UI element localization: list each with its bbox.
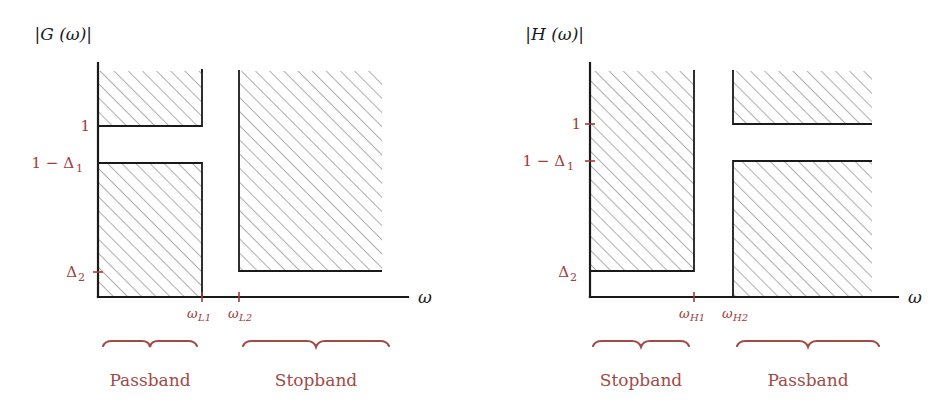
x-tick-label-omega-l1-main: ω <box>187 306 198 321</box>
y-tick-label-delta2-sub: 2 <box>570 271 577 284</box>
band-label-right: Stopband <box>275 370 358 390</box>
y-tick-label-one: 1 <box>80 117 90 135</box>
x-tick-label-omega-l1-sub: L1 <box>197 312 211 323</box>
region-passband-lower-forbidden <box>98 163 202 297</box>
y-tick-label-delta2: Δ 2 <box>66 263 85 284</box>
band-label-right: Passband <box>767 370 848 390</box>
brace-passband <box>103 341 197 347</box>
brace-stopband <box>243 341 389 347</box>
y-tick-label-one-minus-delta1-sub: 1 <box>567 160 574 173</box>
x-tick-label-omega-l1: ω L1 <box>187 306 211 323</box>
y-tick-label-one-minus-delta1: 1 − Δ 1 <box>523 152 574 173</box>
x-tick-label-omega-h1: ω H1 <box>679 306 705 323</box>
y-tick-label-one: 1 <box>571 115 581 133</box>
band-label-left: Stopband <box>600 370 683 390</box>
filter-spec-svg: |G (ω)| ω 1 1 − Δ 1 Δ 2 ω L1 ω L2 <box>0 0 942 409</box>
panel-highpass: |H (ω)| ω 1 1 − Δ 1 Δ 2 ω H1 ω H2 <box>523 24 922 390</box>
y-tick-label-one-minus-delta1-main: 1 − Δ <box>32 154 75 172</box>
filter-spec-figure: |G (ω)| ω 1 1 − Δ 1 Δ 2 ω L1 ω L2 <box>0 0 942 409</box>
x-tick-label-omega-h1-sub: H1 <box>689 312 705 323</box>
y-tick-label-delta2-main: Δ <box>66 263 77 281</box>
y-axis-label: |G (ω)| <box>34 24 92 44</box>
y-tick-label-one-minus-delta1: 1 − Δ 1 <box>32 154 83 175</box>
y-tick-label-delta2: Δ 2 <box>558 263 577 284</box>
band-label-left: Passband <box>109 370 190 390</box>
region-passband-lower-forbidden <box>733 161 872 297</box>
x-tick-label-omega-h2-sub: H2 <box>732 312 748 323</box>
x-axis-label: ω <box>908 287 922 307</box>
region-stopband-forbidden <box>239 71 382 271</box>
region-passband-upper-forbidden <box>98 71 202 126</box>
x-axis-label: ω <box>418 287 432 307</box>
y-tick-label-delta2-sub: 2 <box>78 271 85 284</box>
panel-lowpass: |G (ω)| ω 1 1 − Δ 1 Δ 2 ω L1 ω L2 <box>32 24 432 390</box>
region-passband-upper-forbidden <box>733 71 872 124</box>
x-tick-label-omega-l2: ω L2 <box>228 306 252 323</box>
x-tick-label-omega-h1-main: ω <box>679 306 690 321</box>
x-tick-label-omega-l2-sub: L2 <box>238 312 252 323</box>
brace-stopband <box>593 341 689 347</box>
y-tick-label-one-minus-delta1-sub: 1 <box>76 162 83 175</box>
region-stopband-forbidden <box>590 71 694 271</box>
x-tick-label-omega-h2: ω H2 <box>722 306 748 323</box>
y-tick-label-delta2-main: Δ <box>558 263 569 281</box>
x-tick-label-omega-h2-main: ω <box>722 306 733 321</box>
y-axis-label: |H (ω)| <box>525 24 584 44</box>
x-tick-label-omega-l2-main: ω <box>228 306 239 321</box>
y-tick-label-one-minus-delta1-main: 1 − Δ <box>523 152 566 170</box>
brace-passband <box>737 341 879 347</box>
